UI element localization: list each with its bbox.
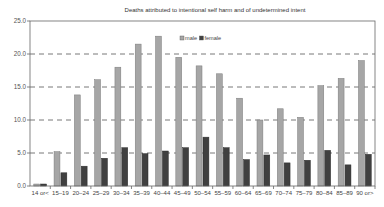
x-tick-label: 70–74 (275, 190, 292, 196)
x-tick-label: 30–34 (113, 190, 130, 196)
legend-label-female: female (204, 35, 221, 41)
bar-male (74, 95, 80, 186)
bar-female (102, 158, 108, 186)
x-tick-label: 14 or< (32, 190, 50, 196)
bar-female (183, 148, 189, 186)
bar-female (284, 163, 290, 186)
bar-female (304, 160, 310, 186)
bar-female (122, 148, 128, 186)
y-tick-label: 15.0 (14, 83, 27, 90)
x-tick-label: 50–54 (194, 190, 211, 196)
bar-male (54, 152, 60, 186)
y-tick-label: 20.0 (14, 50, 27, 57)
bar-male (135, 44, 141, 186)
y-tick-label: 0.0 (17, 182, 26, 189)
bar-male (338, 78, 344, 186)
bar-male (277, 109, 283, 186)
bar-male (298, 117, 304, 186)
bars (34, 36, 371, 186)
x-tick-label: 40–44 (154, 190, 171, 196)
bar-male (318, 86, 324, 186)
x-axis: 14 or<15–1920–2425–2930–3435–3940–4445–4… (32, 186, 375, 196)
x-tick-label: 20–24 (72, 190, 89, 196)
bar-male (358, 61, 364, 186)
legend-label-male: male (185, 35, 197, 41)
bar-female (203, 137, 209, 186)
bar-female (325, 150, 331, 186)
bar-male (257, 120, 263, 186)
bar-female (61, 173, 67, 186)
x-tick-label: 25–29 (93, 190, 110, 196)
y-tick-label: 25.0 (14, 17, 27, 24)
x-tick-label: 65–69 (255, 190, 272, 196)
legend-swatch-female (199, 36, 203, 40)
x-tick-label: 90 or> (356, 190, 374, 196)
bar-female (162, 151, 168, 186)
bar-male (115, 67, 121, 186)
y-tick-label: 10.0 (14, 116, 27, 123)
y-axis: 0.05.010.015.020.025.0 (14, 17, 30, 189)
bar-male (237, 98, 243, 186)
x-tick-label: 80–84 (316, 190, 333, 196)
x-tick-label: 75–79 (296, 190, 313, 196)
bar-chart: Deaths attributed to intentional self ha… (0, 0, 384, 207)
bar-male (196, 66, 202, 186)
x-tick-label: 55–59 (214, 190, 231, 196)
bar-female (142, 154, 148, 186)
x-tick-label: 60–64 (235, 190, 252, 196)
bar-male (176, 57, 182, 186)
x-tick-label: 35–39 (133, 190, 150, 196)
y-tick-label: 5.0 (17, 149, 26, 156)
bar-female (244, 160, 250, 186)
bar-male (156, 36, 162, 186)
bar-male (95, 80, 101, 186)
chart-title: Deaths attributed to intentional self ha… (125, 7, 306, 13)
bar-female (264, 155, 270, 186)
bar-female (223, 148, 229, 186)
legend: malefemale (180, 35, 221, 41)
bar-female (345, 165, 351, 186)
x-tick-label: 85–89 (336, 190, 353, 196)
bar-female (81, 166, 87, 186)
bar-female (365, 154, 371, 186)
x-tick-label: 15–19 (52, 190, 69, 196)
x-tick-label: 45–49 (174, 190, 191, 196)
legend-swatch-male (180, 36, 184, 40)
bar-male (216, 74, 222, 186)
